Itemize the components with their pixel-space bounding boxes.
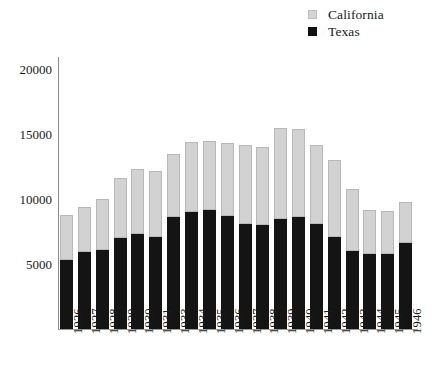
x-axis-tick-label-text: 1944: [375, 308, 388, 334]
bar-segment-california: [328, 160, 341, 237]
x-axis-tick-label-text: 1940: [304, 308, 317, 334]
bar-segment-california: [274, 128, 287, 219]
y-axis-tick-label: 10000: [20, 193, 53, 206]
legend-item-texas: Texas: [308, 23, 434, 40]
legend-swatch-texas-icon: [308, 27, 317, 36]
bar-segment-california: [114, 178, 127, 238]
x-axis-tick-label-text: 1931: [161, 308, 174, 334]
x-axis-tick-label-text: 1929: [126, 308, 139, 334]
x-axis-tick-label-text: 1936: [233, 308, 246, 334]
bar-segment-california: [346, 189, 359, 251]
bar-segment-california: [399, 202, 412, 244]
x-axis-tick-label-text: 1928: [108, 308, 121, 334]
bar-segment-california: [221, 143, 234, 216]
x-axis-tick-label-text: 1930: [143, 308, 156, 334]
x-axis-tick-label-text: 1927: [90, 308, 103, 334]
bar-segment-california: [256, 147, 269, 225]
stacked-bar-chart: California Texas 2000015000100005000 192…: [0, 0, 438, 380]
y-axis-line: [58, 57, 59, 329]
x-axis-tick-label-text: 1937: [251, 308, 264, 334]
x-axis-tick-label-text: 1926: [72, 308, 85, 334]
chart-legend: California Texas: [308, 6, 434, 40]
bar-segment-california: [78, 207, 91, 252]
bar-segment-california: [381, 211, 394, 254]
bar-segment-california: [60, 215, 73, 260]
bar-segment-california: [363, 210, 376, 254]
plot-area: 2000015000100005000: [58, 50, 418, 330]
bar-segment-california: [292, 129, 305, 217]
x-axis-tick-label-text: 1942: [340, 308, 353, 334]
bar-series-container: [60, 51, 418, 329]
bar-segment-california: [167, 154, 180, 218]
bar-segment-california: [149, 171, 162, 237]
legend-swatch-california-icon: [308, 10, 317, 19]
y-axis-tick-label: 5000: [26, 258, 52, 271]
bar-segment-california: [131, 169, 144, 234]
x-axis-tick-label-text: 1946: [411, 308, 424, 334]
x-axis-tick-label-text: 1938: [268, 308, 281, 334]
bar-segment-california: [96, 199, 109, 250]
y-axis-tick-label: 15000: [20, 128, 53, 141]
legend-label-california: California: [328, 8, 384, 22]
x-axis-labels: 1926192719281929193019311933193419351936…: [58, 332, 418, 380]
x-axis-tick-label-text: 1943: [358, 308, 371, 334]
legend-item-california: California: [308, 6, 434, 23]
x-axis-tick-label-text: 1934: [197, 308, 210, 334]
legend-label-texas: Texas: [328, 25, 360, 39]
x-axis-tick-label-text: 1935: [215, 308, 228, 334]
y-axis-tick-label: 20000: [20, 63, 53, 76]
x-axis-tick-label-text: 1945: [393, 308, 406, 334]
bar-segment-california: [310, 145, 323, 224]
bar-segment-california: [239, 145, 252, 224]
bar-segment-california: [185, 142, 198, 212]
x-axis-tick-label-text: 1933: [179, 308, 192, 334]
x-axis-tick-label-text: 1939: [286, 308, 299, 334]
x-axis-tick-label-text: 1941: [322, 308, 335, 334]
bar-segment-california: [203, 141, 216, 210]
